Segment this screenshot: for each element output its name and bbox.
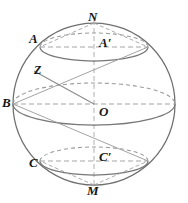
- point-label-o: O: [99, 105, 108, 118]
- point-label-a: A: [29, 32, 38, 45]
- point-label-b: B: [2, 96, 11, 109]
- south-pole-to-lower-right-line: [94, 161, 148, 185]
- point-label-z: Z: [34, 64, 41, 76]
- point-label-c: C: [29, 156, 38, 169]
- north-pole-to-upper-left-line: [40, 23, 94, 47]
- south-pole-to-lower-left-line: [40, 161, 94, 185]
- point-label-c-prime: C′: [99, 150, 111, 163]
- point-label-a-prime: A′: [99, 36, 111, 49]
- b-to-lower-right-chord: [13, 104, 148, 161]
- point-label-m: M: [87, 184, 99, 197]
- sphere-diagram: N M B O A A′ C C′ Z: [0, 0, 188, 203]
- point-label-n: N: [88, 10, 97, 23]
